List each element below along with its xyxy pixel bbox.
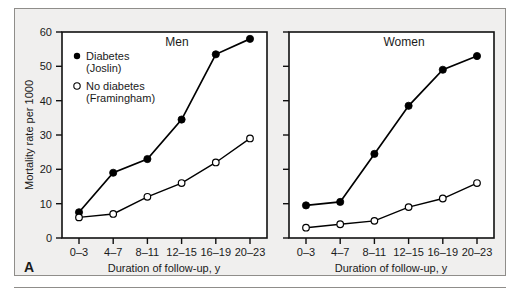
men-y-tick-50: 50 [40, 60, 52, 72]
figure-container: Mortality rate per 1000 60 50 40 30 20 [0, 0, 520, 298]
data-point [337, 198, 344, 205]
data-point [144, 155, 151, 162]
men-x-tick-1: 4–7 [104, 246, 122, 258]
data-point [337, 221, 344, 228]
data-point [473, 52, 480, 59]
women-x-tick-0: 0–3 [297, 246, 315, 258]
data-point [405, 204, 412, 211]
data-point [212, 51, 219, 58]
data-point [474, 180, 481, 187]
men-y-tick-30: 30 [40, 129, 52, 141]
data-point [110, 211, 117, 218]
data-point [213, 159, 220, 166]
legend-open-circle-icon [74, 83, 80, 89]
women-x-tick-4: 16–19 [428, 246, 459, 258]
men-x-tick-labels: 0–3 4–7 8–11 12–15 16–19 20–23 [70, 246, 265, 258]
data-point [371, 218, 378, 225]
men-x-tick-5: 20–23 [235, 246, 266, 258]
women-x-axis-title: Duration of follow-up, y [335, 262, 448, 274]
women-x-ticks [306, 238, 477, 244]
men-x-tick-4: 16–19 [201, 246, 232, 258]
data-point [439, 66, 446, 73]
women-x-tick-2: 8–11 [363, 246, 387, 258]
women-plot-frame [289, 32, 494, 238]
legend-diabetes-label-line2: (Joslin) [86, 62, 121, 74]
men-y-tick-40: 40 [40, 95, 52, 107]
y-axis-title: Mortality rate per 1000 [23, 80, 35, 190]
men-x-tick-0: 0–3 [70, 246, 88, 258]
women-x-tick-1: 4–7 [331, 246, 349, 258]
panel-women: 0–3 4–7 8–11 12–15 16–19 20–23 Duration … [283, 32, 494, 274]
women-x-tick-3: 12–15 [393, 246, 424, 258]
data-point [440, 195, 447, 202]
data-point [110, 169, 117, 176]
panel-men: 60 50 40 30 20 10 0 0–3 4–7 8–11 [40, 26, 267, 274]
legend-nodiabetes-label-line2: (Framingham) [86, 92, 155, 104]
data-point [247, 135, 254, 142]
legend-nodiabetes-label-line1: No diabetes [86, 80, 145, 92]
y-axis-title-text: Mortality rate per 1000 [23, 80, 35, 190]
data-point [303, 224, 310, 231]
data-point [405, 102, 412, 109]
women-x-tick-labels: 0–3 4–7 8–11 12–15 16–19 20–23 [297, 246, 492, 258]
men-x-tick-2: 8–11 [136, 246, 160, 258]
legend-diabetes-label-line1: Diabetes [86, 50, 130, 62]
women-x-tick-5: 20–23 [462, 246, 493, 258]
data-point [144, 194, 151, 201]
men-y-tick-20: 20 [40, 163, 52, 175]
data-point [302, 202, 309, 209]
men-x-axis-title: Duration of follow-up, y [108, 262, 221, 274]
data-point [178, 116, 185, 123]
men-y-tick-labels: 60 50 40 30 20 10 0 [40, 26, 52, 244]
data-point [178, 180, 185, 187]
chart-svg: Mortality rate per 1000 60 50 40 30 20 [0, 0, 520, 298]
men-y-tick-60: 60 [40, 26, 52, 38]
women-y-ticks [283, 32, 289, 238]
men-x-tick-3: 12–15 [166, 246, 197, 258]
panel-letter: A [24, 259, 34, 275]
men-y-ticks [56, 32, 62, 238]
men-panel-title: Men [165, 35, 188, 49]
women-panel-title: Women [383, 35, 424, 49]
data-point [76, 214, 83, 221]
men-y-tick-0: 0 [46, 232, 52, 244]
legend-filled-circle-icon [74, 53, 80, 59]
data-point [246, 35, 253, 42]
men-x-ticks [79, 238, 250, 244]
men-y-tick-10: 10 [40, 198, 52, 210]
data-point [371, 150, 378, 157]
